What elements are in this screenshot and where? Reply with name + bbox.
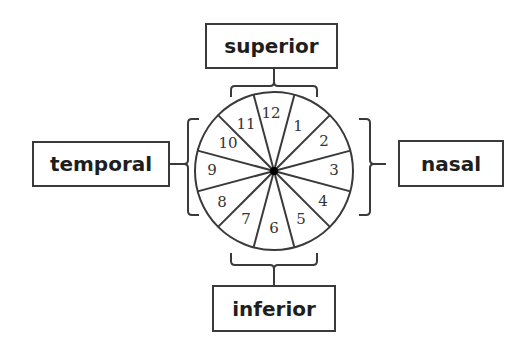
sector-10: 10 — [218, 134, 237, 152]
sector-5: 5 — [296, 210, 306, 228]
sector-6: 6 — [269, 219, 279, 237]
center-dot — [270, 167, 278, 175]
temporal-label: temporal — [32, 141, 170, 187]
inferior-label: inferior — [212, 285, 336, 332]
sector-12: 12 — [261, 104, 280, 122]
nasal-label: nasal — [398, 140, 504, 187]
sector-8: 8 — [217, 193, 227, 211]
sector-2: 2 — [319, 132, 329, 150]
sector-11: 11 — [236, 115, 255, 133]
sector-4: 4 — [318, 192, 328, 210]
sector-3: 3 — [329, 161, 339, 179]
right-brace — [359, 119, 374, 215]
sector-9: 9 — [207, 161, 217, 179]
superior-label: superior — [205, 23, 338, 69]
sector-1: 1 — [293, 117, 303, 135]
sector-7: 7 — [241, 210, 251, 228]
bottom-brace — [231, 253, 317, 269]
